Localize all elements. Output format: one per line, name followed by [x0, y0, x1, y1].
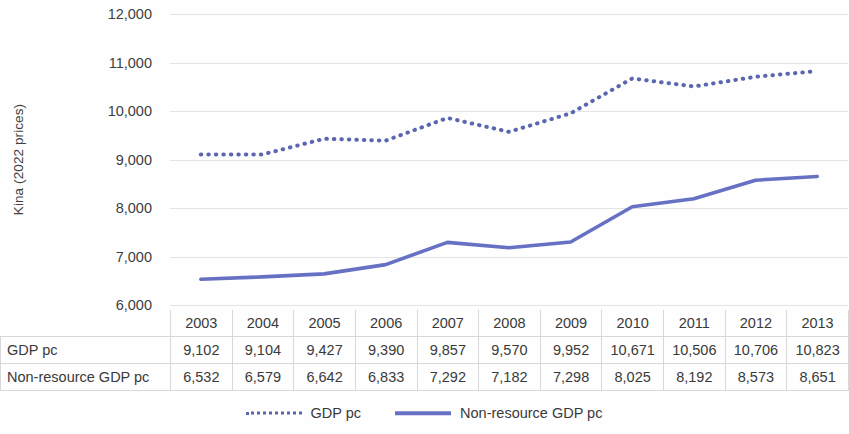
table-header-row: 2003200420052006200720082009201020112012… [1, 310, 849, 337]
table-cell: 9,570 [479, 337, 541, 364]
table-row-label: Non-resource GDP pc [1, 364, 171, 391]
table-column-header: 2003 [171, 310, 233, 337]
plot-area [170, 14, 848, 305]
table-cell: 8,025 [602, 364, 664, 391]
table-column-header: 2010 [602, 310, 664, 337]
y-axis-tick-labels: 12,00011,00010,0009,0008,0007,0006,000 [66, 0, 152, 320]
table-row: GDP pc9,1029,1049,4279,3909,8579,5709,95… [1, 337, 849, 364]
y-axis-tick-label: 11,000 [66, 55, 152, 71]
table-column-header: 2005 [294, 310, 356, 337]
table-column-header: 2008 [479, 310, 541, 337]
legend-label: GDP pc [311, 405, 362, 421]
table-body: GDP pc9,1029,1049,4279,3909,8579,5709,95… [1, 337, 849, 391]
table-row: Non-resource GDP pc6,5326,5796,6426,8337… [1, 364, 849, 391]
series-line [201, 71, 817, 154]
gridline [170, 305, 848, 306]
y-axis-tick-label: 7,000 [66, 249, 152, 265]
y-axis-tick-label: 9,000 [66, 152, 152, 168]
plot-lines [170, 14, 848, 305]
table-cell: 6,833 [355, 364, 417, 391]
legend-item[interactable]: GDP pc [246, 405, 362, 421]
table-column-header: 2006 [355, 310, 417, 337]
table-cell: 6,642 [294, 364, 356, 391]
table-cell: 6,579 [232, 364, 294, 391]
table-cell: 10,671 [602, 337, 664, 364]
series-line [201, 176, 817, 279]
table-cell: 7,298 [540, 364, 602, 391]
table-cell: 8,573 [725, 364, 787, 391]
table-corner-cell [1, 310, 171, 337]
table-cell: 9,102 [171, 337, 233, 364]
table-column-header: 2004 [232, 310, 294, 337]
table-cell: 8,651 [787, 364, 849, 391]
y-axis-tick-label: 12,000 [66, 6, 152, 22]
table-column-header: 2007 [417, 310, 479, 337]
table-cell: 10,506 [664, 337, 726, 364]
table-cell: 7,292 [417, 364, 479, 391]
table-column-header: 2013 [787, 310, 849, 337]
legend-label: Non-resource GDP pc [460, 405, 602, 421]
table-cell: 9,104 [232, 337, 294, 364]
y-axis-tick-label: 10,000 [66, 103, 152, 119]
data-table: 2003200420052006200720082009201020112012… [0, 310, 849, 391]
legend-item[interactable]: Non-resource GDP pc [395, 405, 602, 421]
table-column-header: 2012 [725, 310, 787, 337]
table-row-label: GDP pc [1, 337, 171, 364]
table-cell: 10,706 [725, 337, 787, 364]
y-axis-tick-label: 8,000 [66, 200, 152, 216]
legend-swatch-icon [395, 406, 451, 420]
legend: GDP pcNon-resource GDP pc [0, 405, 848, 421]
table-cell: 10,823 [787, 337, 849, 364]
table-column-header: 2011 [664, 310, 726, 337]
table-cell: 8,192 [664, 364, 726, 391]
table-cell: 9,427 [294, 337, 356, 364]
table-column-header: 2009 [540, 310, 602, 337]
table-cell: 9,390 [355, 337, 417, 364]
y-axis-title: Kina (2022 prices) [11, 60, 26, 260]
table-cell: 9,952 [540, 337, 602, 364]
table-cell: 7,182 [479, 364, 541, 391]
legend-swatch-icon [246, 406, 302, 420]
table-cell: 9,857 [417, 337, 479, 364]
table-cell: 6,532 [171, 364, 233, 391]
